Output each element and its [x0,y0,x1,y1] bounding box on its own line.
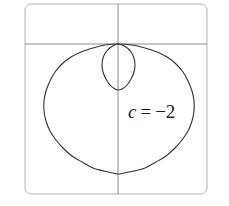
parameter-symbol: c [128,101,137,122]
plot-canvas: c=−2 [0,0,229,206]
parameter-value: −2 [155,101,175,122]
equals-sign: = [140,101,151,122]
limacon-figure: c=−2 [0,0,229,206]
